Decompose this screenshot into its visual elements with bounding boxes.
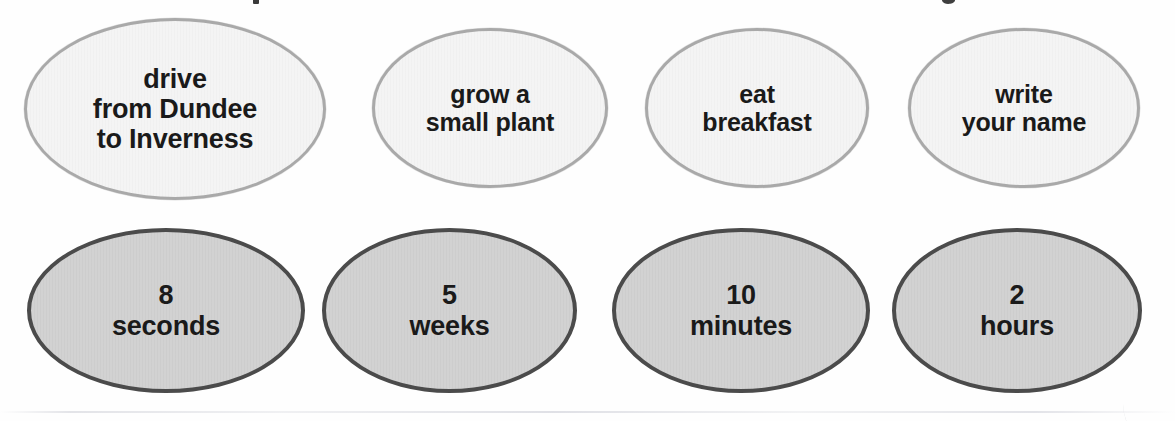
duration-label-seconds: 8 seconds	[104, 280, 228, 340]
activity-label-grow: grow a small plant	[418, 80, 562, 136]
duration-ellipse-hours[interactable]: 2 hours	[892, 228, 1142, 393]
activity-ellipse-drive[interactable]: drive from Dundee to Inverness	[24, 18, 326, 200]
activity-ellipse-grow[interactable]: grow a small plant	[372, 28, 608, 188]
duration-ellipse-weeks[interactable]: 5 weeks	[322, 228, 577, 393]
activity-label-drive: drive from Dundee to Inverness	[85, 64, 265, 155]
activity-ellipse-row: drive from Dundee to Inverness grow a sm…	[0, 18, 1175, 200]
activity-ellipse-write[interactable]: write your name	[908, 28, 1140, 188]
scan-baseline-artifact	[0, 411, 1175, 413]
activity-label-write: write your name	[954, 80, 1095, 136]
duration-ellipse-minutes[interactable]: 10 minutes	[612, 228, 870, 393]
clipped-title-fragment-left	[253, 0, 259, 4]
activity-label-breakfast: eat breakfast	[694, 80, 819, 136]
clipped-title-fragment-right	[942, 0, 956, 5]
duration-label-weeks: 5 weeks	[401, 280, 497, 340]
duration-label-minutes: 10 minutes	[682, 280, 800, 340]
worksheet-page: drive from Dundee to Inverness grow a sm…	[0, 0, 1175, 421]
duration-label-hours: 2 hours	[972, 280, 1062, 340]
activity-ellipse-breakfast[interactable]: eat breakfast	[645, 28, 869, 188]
duration-ellipse-seconds[interactable]: 8 seconds	[27, 228, 305, 393]
duration-ellipse-row: 8 seconds 5 weeks 10 minutes 2 hours	[0, 228, 1175, 394]
